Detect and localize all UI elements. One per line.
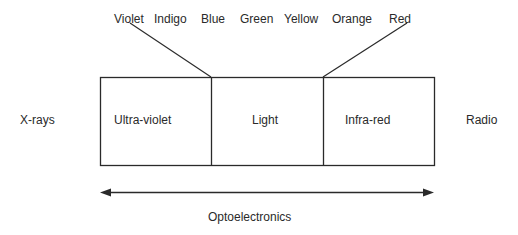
color-label-violet: Violet — [114, 12, 144, 26]
color-label-indigo: Indigo — [154, 12, 187, 26]
color-label-green: Green — [240, 12, 273, 26]
radio-label: Radio — [466, 113, 497, 127]
red-connector-line — [323, 23, 407, 77]
violet-connector-line — [130, 23, 211, 77]
arrow-right-head — [423, 189, 434, 197]
xrays-label: X-rays — [20, 113, 55, 127]
optoelectronics-label: Optoelectronics — [208, 210, 291, 224]
arrow-left-head — [100, 189, 111, 197]
color-label-orange: Orange — [332, 12, 372, 26]
light-box-label: Light — [252, 113, 278, 127]
color-label-red: Red — [389, 12, 411, 26]
color-label-blue: Blue — [201, 12, 225, 26]
color-label-yellow: Yellow — [284, 12, 318, 26]
ultraviolet-box-label: Ultra-violet — [114, 113, 171, 127]
infrared-box-label: Infra-red — [345, 113, 390, 127]
